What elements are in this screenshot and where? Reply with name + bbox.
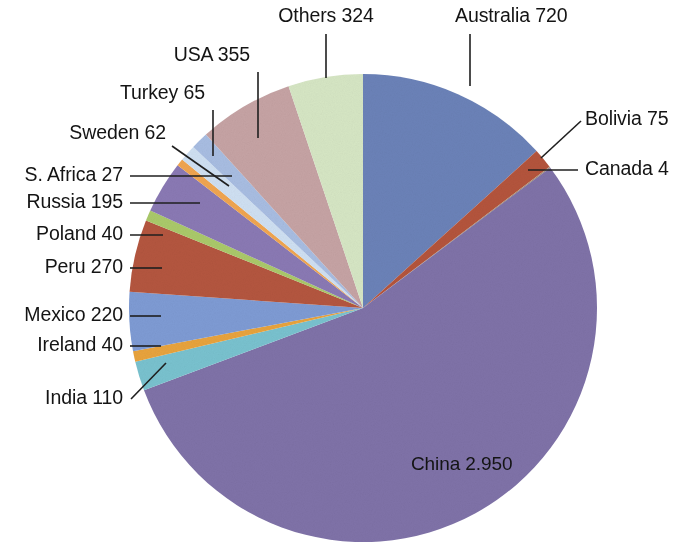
- label-peru: Peru 270: [45, 255, 124, 277]
- label-usa: USA 355: [174, 43, 251, 65]
- label-australia: Australia 720: [455, 4, 568, 26]
- label-ireland: Ireland 40: [37, 333, 123, 355]
- label-bolivia: Bolivia 75: [585, 107, 669, 129]
- label-china: China 2.950: [411, 453, 512, 474]
- pie-slices-group: [129, 74, 597, 542]
- label-poland: Poland 40: [36, 222, 123, 244]
- label-canada: Canada 4: [585, 157, 669, 179]
- label-s-africa: S. Africa 27: [24, 163, 123, 185]
- pie-chart-svg: Others 324 Australia 720 USA 355 Bolivia…: [0, 0, 679, 545]
- label-sweden: Sweden 62: [69, 121, 166, 143]
- label-others: Others 324: [278, 4, 374, 26]
- pie-chart-figure: Others 324 Australia 720 USA 355 Bolivia…: [0, 0, 679, 545]
- label-mexico: Mexico 220: [24, 303, 123, 325]
- label-russia: Russia 195: [26, 190, 123, 212]
- leader-line-bolivia: [541, 121, 581, 158]
- label-india: India 110: [45, 386, 123, 408]
- label-turkey: Turkey 65: [120, 81, 205, 103]
